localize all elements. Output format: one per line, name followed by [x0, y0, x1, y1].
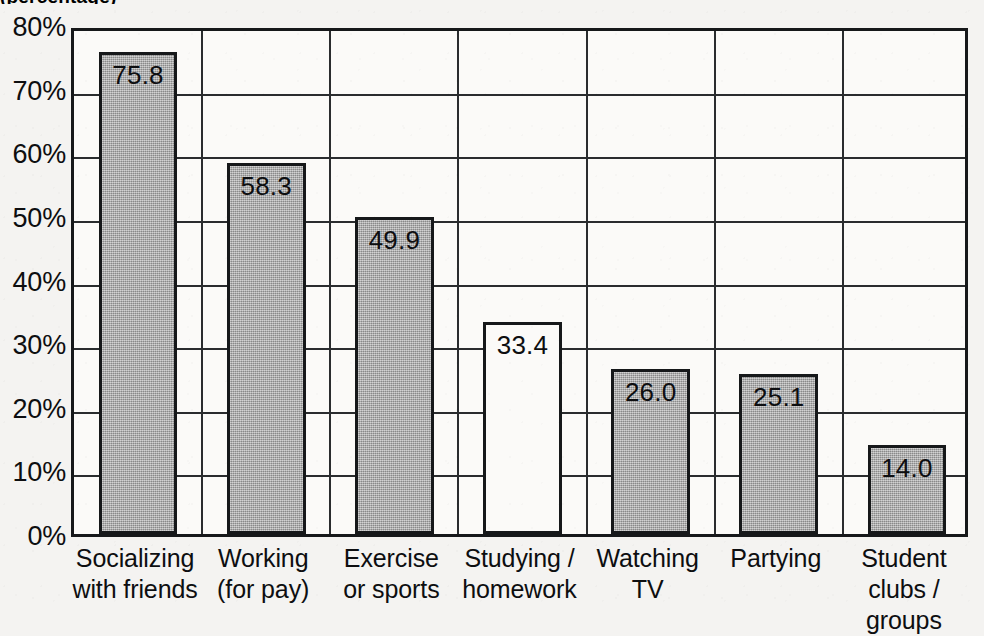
gridline-horizontal-60 — [74, 157, 965, 159]
y-tick-40pct: 40% — [2, 269, 66, 296]
x-category-label-6: Partying — [704, 543, 848, 574]
category-separator-6 — [842, 31, 844, 534]
x-category-label-line1-4: Studying / — [464, 544, 574, 572]
x-category-label-line1-1: Socializing — [76, 544, 194, 572]
y-tick-10pct: 10% — [2, 459, 66, 486]
gridline-horizontal-40 — [74, 285, 965, 287]
y-tick-60pct: 60% — [2, 141, 66, 168]
y-tick-70pct: 70% — [2, 78, 66, 105]
x-category-label-line2-1: with friends — [63, 574, 207, 605]
bar-3[interactable]: 49.9 — [355, 217, 434, 534]
bar-2[interactable]: 58.3 — [227, 163, 306, 534]
bar-value-label-2: 58.3 — [230, 171, 303, 201]
y-axis-tick-labels: 80%70%60%50%40%30%20%10%0% — [0, 0, 66, 603]
y-tick-30pct: 30% — [2, 332, 66, 359]
x-category-label-1: Socializingwith friends — [63, 543, 207, 605]
bar-value-label-3: 49.9 — [358, 225, 431, 255]
category-separator-2 — [329, 31, 331, 534]
y-tick-50pct: 50% — [2, 205, 66, 232]
x-category-label-line2-4: homework — [447, 574, 591, 605]
category-separator-5 — [714, 31, 716, 534]
bar-6[interactable]: 25.1 — [739, 374, 818, 534]
x-category-label-5: WatchingTV — [576, 543, 720, 605]
x-category-label-line1-2: Working — [218, 544, 309, 572]
gridline-horizontal-50 — [74, 221, 965, 223]
x-category-label-line1-3: Exercise — [344, 544, 439, 572]
category-separator-4 — [586, 31, 588, 534]
x-category-label-line2-2: (for pay) — [191, 574, 335, 605]
x-category-label-2: Working(for pay) — [191, 543, 335, 605]
bar-value-label-5: 26.0 — [614, 377, 687, 407]
bar-1[interactable]: 75.8 — [99, 52, 178, 534]
x-category-label-line1-6: Partying — [730, 544, 821, 572]
bar-value-label-7: 14.0 — [871, 453, 944, 483]
category-separator-1 — [201, 31, 203, 534]
x-category-label-7: Studentclubs / groups — [832, 543, 976, 636]
bar-7[interactable]: 14.0 — [868, 445, 947, 534]
x-category-label-line2-3: or sports — [319, 574, 463, 605]
y-tick-20pct: 20% — [2, 396, 66, 423]
bar-4[interactable]: 33.4 — [483, 322, 562, 535]
x-category-label-line2-5: TV — [576, 574, 720, 605]
x-category-label-line1-5: Watching — [596, 544, 698, 572]
category-separator-3 — [457, 31, 459, 534]
y-tick-80pct: 80% — [2, 14, 66, 41]
x-category-label-line2-7: clubs / groups — [832, 574, 976, 636]
bar-value-label-4: 33.4 — [486, 330, 559, 360]
y-tick-0pct: 0% — [2, 523, 66, 550]
gridline-horizontal-70 — [74, 94, 965, 96]
x-category-label-3: Exerciseor sports — [319, 543, 463, 605]
bar-value-label-6: 25.1 — [742, 382, 815, 412]
bar-value-label-1: 75.8 — [102, 60, 175, 90]
chart-plot-area: 75.858.349.933.426.025.114.0 — [71, 28, 968, 537]
x-category-label-4: Studying /homework — [447, 543, 591, 605]
bar-5[interactable]: 26.0 — [611, 369, 690, 534]
x-category-label-line1-7: Student — [861, 544, 946, 572]
